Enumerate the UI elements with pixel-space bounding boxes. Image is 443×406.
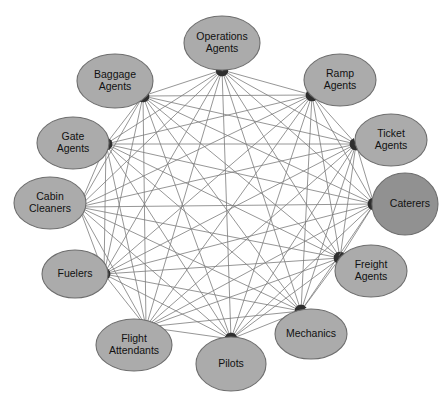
node-label: Ramp [326, 67, 354, 79]
graph-canvas: OperationsAgentsRampAgentsTicketAgentsCa… [0, 0, 443, 406]
node-label: Caterers [390, 197, 430, 209]
node-fuelers[interactable]: Fuelers [42, 250, 108, 298]
node-label: Fuelers [57, 267, 92, 279]
node-pilots[interactable]: Pilots [196, 337, 266, 391]
node-flight-attendants[interactable]: FlightAttendants [96, 319, 172, 371]
node-label: Baggage [94, 68, 136, 80]
node-label: Cleaners [29, 202, 71, 214]
node-label: Operations [196, 30, 247, 42]
node-label: Agents [375, 139, 408, 151]
node-label: Flight [121, 332, 147, 344]
node-label: Mechanics [286, 327, 336, 339]
node-label: Freight [355, 258, 388, 270]
node-ticket-agents[interactable]: TicketAgents [355, 114, 427, 166]
node-label: Gate [62, 130, 85, 142]
node-label: Agents [57, 142, 90, 154]
node-mechanics[interactable]: Mechanics [275, 309, 347, 359]
node-label: Agents [206, 42, 239, 54]
node-cabin-cleaners[interactable]: CabinCleaners [14, 177, 86, 229]
node-operations-agents[interactable]: OperationsAgents [184, 16, 260, 70]
node-caterers[interactable]: Caterers [372, 173, 438, 235]
node-label: Pilots [218, 357, 244, 369]
node-label: Agents [99, 80, 132, 92]
node-label: Cabin [36, 190, 64, 202]
node-ramp-agents[interactable]: RampAgents [304, 54, 376, 106]
node-label: Agents [324, 79, 357, 91]
node-gate-agents[interactable]: GateAgents [37, 117, 109, 169]
node-freight-agents[interactable]: FreightAgents [335, 245, 407, 297]
node-label: Ticket [377, 127, 405, 139]
node-label: Attendants [109, 344, 159, 356]
node-baggage-agents[interactable]: BaggageAgents [77, 54, 153, 108]
node-label: Agents [355, 270, 388, 282]
network-diagram: OperationsAgentsRampAgentsTicketAgentsCa… [0, 0, 443, 406]
